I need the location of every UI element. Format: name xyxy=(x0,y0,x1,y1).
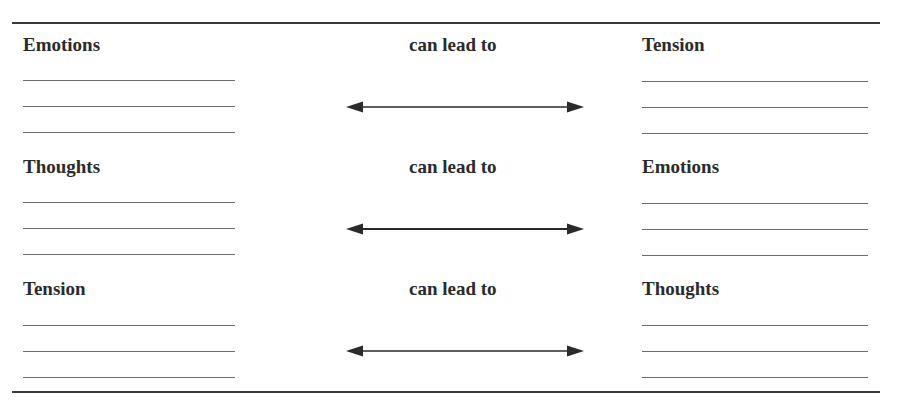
row-2-left-blank-line-1[interactable] xyxy=(23,202,235,203)
row-2-right-blank-line-1[interactable] xyxy=(642,203,868,204)
row-1-right-label: Tension xyxy=(642,34,705,56)
double-arrow-icon xyxy=(346,345,584,357)
row-1-left-label: Emotions xyxy=(23,34,100,56)
double-arrow-icon xyxy=(346,101,584,113)
worksheet-row-1: Emotions can lead to Tension xyxy=(0,34,904,156)
row-2-connector-label: can lead to xyxy=(409,156,497,178)
worksheet-row-2: Thoughts can lead to Emotions xyxy=(0,156,904,278)
worksheet-row-3: Tension can lead to Thoughts xyxy=(0,278,904,400)
row-1-left-blank-line-2[interactable] xyxy=(23,106,235,107)
row-2-left-blank-line-2[interactable] xyxy=(23,228,235,229)
row-3-left-blank-line-3[interactable] xyxy=(23,377,235,378)
top-rule xyxy=(12,22,880,24)
row-2-left-label: Thoughts xyxy=(23,156,100,178)
double-arrow-icon xyxy=(346,223,584,235)
row-1-left-blank-line-3[interactable] xyxy=(23,132,235,133)
row-3-right-blank-line-2[interactable] xyxy=(642,351,868,352)
row-3-right-blank-line-1[interactable] xyxy=(642,325,868,326)
clipped-header-text xyxy=(0,0,904,6)
row-1-left-blank-line-1[interactable] xyxy=(23,80,235,81)
row-1-right-blank-line-1[interactable] xyxy=(642,81,868,82)
row-3-right-blank-line-3[interactable] xyxy=(642,377,868,378)
row-2-right-label: Emotions xyxy=(642,156,719,178)
row-3-left-blank-line-1[interactable] xyxy=(23,325,235,326)
row-1-connector-label: can lead to xyxy=(409,34,497,56)
row-3-right-label: Thoughts xyxy=(642,278,719,300)
row-3-left-label: Tension xyxy=(23,278,86,300)
row-1-right-blank-line-3[interactable] xyxy=(642,133,868,134)
row-3-connector-label: can lead to xyxy=(409,278,497,300)
row-2-right-blank-line-3[interactable] xyxy=(642,255,868,256)
row-2-right-blank-line-2[interactable] xyxy=(642,229,868,230)
row-2-left-blank-line-3[interactable] xyxy=(23,254,235,255)
bottom-rule xyxy=(12,391,880,393)
row-1-right-blank-line-2[interactable] xyxy=(642,107,868,108)
row-3-left-blank-line-2[interactable] xyxy=(23,351,235,352)
